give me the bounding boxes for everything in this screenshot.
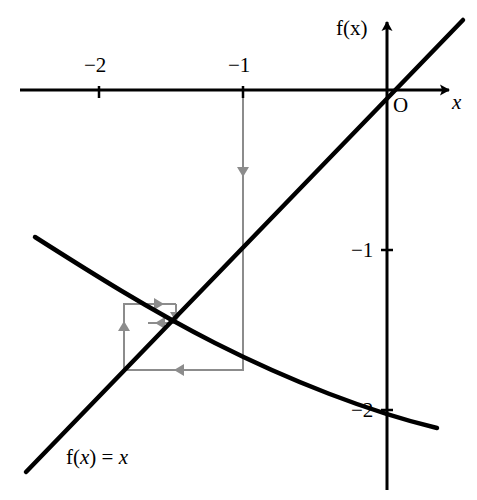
x-axis-label: x (452, 92, 461, 113)
x-tick-label-minus2: −2 (84, 55, 106, 76)
identity-line-label: f(x) = x (66, 447, 128, 468)
y-axis-label: f(x) (336, 18, 367, 39)
identity-line-label-mid: ) = (89, 445, 118, 469)
x-tick-label-minus1: −1 (228, 55, 250, 76)
origin-label: O (393, 95, 408, 116)
identity-line-label-var2: x (119, 445, 128, 469)
y-axis-label-text: f(x) (336, 16, 367, 40)
identity-line-label-prefix: f( (66, 445, 80, 469)
identity-line-curve (26, 20, 463, 472)
y-tick-label-minus1: −1 (351, 240, 373, 261)
cobweb-diagram-figure: f(x) x O −2 −1 −1 −2 f(x) = x (0, 0, 477, 500)
identity-line-label-var1: x (80, 445, 89, 469)
y-tick-label-minus2: −2 (351, 400, 373, 421)
